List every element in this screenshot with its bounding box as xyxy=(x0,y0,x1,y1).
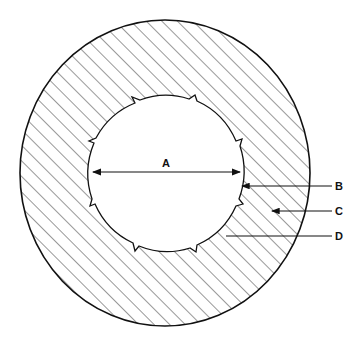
label-d: D xyxy=(335,230,343,242)
ring-cross-section-diagram: A B C D xyxy=(0,0,360,339)
label-b: B xyxy=(335,180,343,192)
inner-bore-edge xyxy=(88,95,244,252)
label-c: C xyxy=(335,205,343,217)
label-a: A xyxy=(162,157,170,169)
